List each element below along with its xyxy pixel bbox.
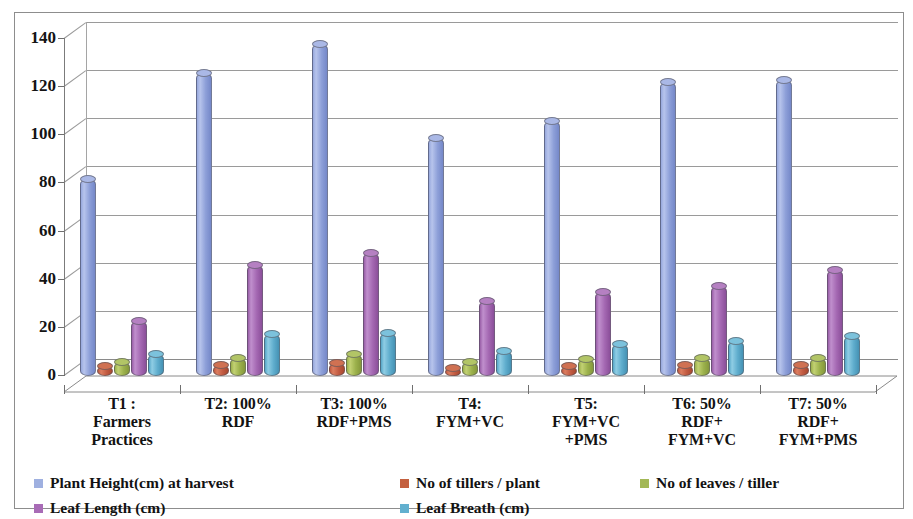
bar-top-cap [445,364,461,372]
bar-top-cap [810,354,826,362]
bar-top-cap [776,76,792,84]
y-axis-tick-label: 20 [12,318,56,335]
category-label-line: RDF+PMS [296,413,412,431]
category-label-line: T2: 100% [180,395,296,413]
legend-label: Plant Height(cm) at harvest [50,474,234,492]
bar[interactable] [595,292,611,376]
legend-item[interactable]: Plant Height(cm) at harvest [34,474,234,492]
x-axis-category-label: T7: 50%RDF+FYM+PMS [760,395,876,449]
bar-top-cap [230,354,246,362]
bar-top-cap [496,347,512,355]
legend-color-swatch [34,479,43,488]
bar[interactable] [312,44,328,376]
x-axis-category-label: T4:FYM+VC [412,395,528,431]
bar[interactable] [776,80,792,376]
category-label-line: +PMS [528,431,644,449]
legend-item[interactable]: Leaf Breath (cm) [400,499,529,517]
bar-top-cap [114,358,130,366]
x-axis-category-label: T2: 100%RDF [180,395,296,431]
bar[interactable] [264,334,280,376]
bar-body [660,82,676,376]
bar[interactable] [462,362,478,376]
bar-group [776,23,860,376]
legend-label: No of leaves / tiller [656,474,779,492]
x-axis-category-label: T3: 100%RDF+PMS [296,395,412,431]
bar[interactable] [544,121,560,376]
bar-top-cap [329,359,345,367]
bar[interactable] [660,82,676,376]
x-axis-categories: T1 :FarmersPracticesT2: 100%RDFT3: 100%R… [64,385,898,460]
x-axis-tick [644,385,645,394]
legend-color-swatch [640,479,649,488]
category-label-line: T5: [528,395,644,413]
bar-body [479,301,495,376]
bar-body [595,292,611,376]
legend-color-swatch [400,479,409,488]
bar-body [428,138,444,376]
legend-item[interactable]: Leaf Length (cm) [34,499,165,517]
bar[interactable] [114,362,130,376]
category-label-line: Farmers [64,413,180,431]
bar[interactable] [561,366,577,376]
bar-top-cap [595,288,611,296]
bar[interactable] [346,354,362,376]
bar[interactable] [694,358,710,376]
bar[interactable] [131,321,147,376]
bar-body [711,286,727,376]
legend-color-swatch [400,504,409,513]
bar-top-cap [131,317,147,325]
category-label-line: Practices [64,431,180,449]
category-label-line: RDF+ [644,413,760,431]
bar[interactable] [230,358,246,376]
bar[interactable] [711,286,727,376]
bar[interactable] [728,341,744,376]
bar[interactable] [677,365,693,376]
bar-top-cap [544,117,560,125]
y-axis-tick-label: 80 [12,173,56,190]
x-axis-tick [876,385,877,394]
bar[interactable] [428,138,444,376]
y-axis-tick-label: 120 [12,77,56,94]
bar-body [544,121,560,376]
bar[interactable] [578,359,594,376]
bar[interactable] [445,368,461,376]
bar[interactable] [810,358,826,376]
bar[interactable] [793,365,809,376]
bar[interactable] [844,336,860,376]
bar[interactable] [97,366,113,376]
legend-label: Leaf Breath (cm) [416,499,529,517]
x-axis-tick [412,385,413,394]
y-axis-tick-label: 40 [12,270,56,287]
x-axis-tick [528,385,529,394]
bar[interactable] [196,73,212,376]
bar-body [196,73,212,376]
bar-group [196,23,280,376]
bar-top-cap [264,330,280,338]
category-label-line: FYM+VC [528,413,644,431]
category-label-line: FYM+PMS [760,431,876,449]
bar[interactable] [213,365,229,376]
bar[interactable] [363,253,379,376]
bar[interactable] [329,363,345,376]
legend-item[interactable]: No of leaves / tiller [640,474,779,492]
bar-top-cap [612,340,628,348]
bar[interactable] [612,344,628,376]
bar[interactable] [80,179,96,376]
y-axis-tick-label: 100 [12,125,56,142]
legend-item[interactable]: No of tillers / plant [400,474,540,492]
bar[interactable] [827,270,843,376]
bar-body [247,265,263,376]
bar-body [776,80,792,376]
bar[interactable] [380,333,396,376]
bar[interactable] [479,301,495,376]
bar-top-cap [80,175,96,183]
bar-body [612,344,628,376]
y-axis-tick-label: 60 [12,222,56,239]
bar-group [544,23,628,376]
bar[interactable] [496,351,512,376]
legend-label: Leaf Length (cm) [50,499,165,517]
bar[interactable] [247,265,263,376]
x-axis-tick [296,385,297,394]
bar[interactable] [148,354,164,376]
category-label-line: T6: 50% [644,395,760,413]
